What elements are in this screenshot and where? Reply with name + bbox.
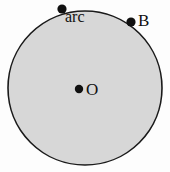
point-o-dot <box>75 85 83 93</box>
point-o-label: O <box>86 81 98 98</box>
point-arc-label: arc <box>65 9 85 25</box>
point-b-label: B <box>138 12 149 29</box>
geometry-diagram: arc B O <box>0 0 170 172</box>
point-b-dot <box>126 17 135 26</box>
main-circle <box>8 11 162 165</box>
